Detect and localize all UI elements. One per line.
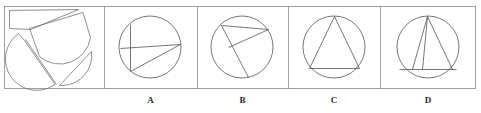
option-a-circle (119, 16, 181, 78)
option-d-circle (397, 16, 459, 78)
option-b-graphic[interactable] (211, 16, 273, 78)
option-d-graphic[interactable] (397, 16, 459, 78)
option-b-long-chord (222, 26, 249, 78)
stimulus-panel-graphic[interactable] (5, 10, 91, 91)
option-c-graphic[interactable] (303, 16, 365, 78)
cut-line-diagonal (26, 40, 57, 85)
option-b-short-chord (229, 30, 269, 48)
option-a-graphic[interactable] (119, 16, 181, 78)
option-b-label: B (197, 95, 288, 106)
outer-frame (5, 7, 476, 89)
piece-thin-sliver-top-left (10, 10, 79, 30)
option-a-horizontal-chord (121, 45, 181, 49)
option-c-label: C (288, 95, 380, 106)
option-c-right-side (335, 17, 360, 69)
piece-wedge-bottom-right (60, 52, 92, 86)
piece-large-semicircle-rotated (30, 13, 91, 65)
option-b-top-chord (222, 26, 269, 30)
figure-container: A B C D (0, 0, 481, 113)
option-a-label: A (104, 95, 197, 106)
option-b-circle (211, 16, 273, 78)
option-d-label: D (380, 95, 476, 106)
